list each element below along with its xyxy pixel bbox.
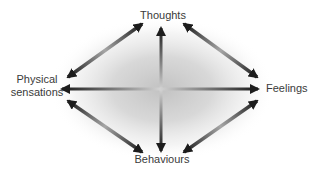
label-feelings: Feelings	[266, 82, 308, 95]
diagram-canvas: Thoughts Physical sensations Feelings Be…	[0, 0, 314, 174]
label-behaviours: Behaviours	[134, 153, 189, 166]
label-thoughts: Thoughts	[140, 9, 186, 22]
label-physical-sensations: Physical sensations	[6, 73, 68, 99]
